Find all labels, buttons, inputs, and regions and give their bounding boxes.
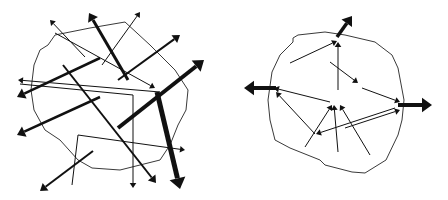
arrow-shaft	[63, 65, 152, 178]
arrow-icon	[345, 108, 400, 128]
arrow-shaft	[321, 108, 395, 132]
right-diagram	[244, 16, 432, 173]
arrow-icon	[244, 81, 276, 95]
arrow-icon	[362, 88, 400, 103]
arrow-icon	[305, 105, 332, 147]
arrow-icon	[276, 92, 315, 134]
arrow-shaft	[362, 88, 395, 100]
arrow-head	[40, 183, 48, 191]
arrow-shaft	[118, 39, 174, 80]
arrow-icon	[50, 20, 85, 57]
arrow-icon	[340, 105, 370, 155]
left-diagram	[17, 12, 204, 191]
blob-outline	[31, 22, 188, 170]
arrow-icon	[102, 12, 140, 65]
arrow-shaft	[345, 112, 395, 128]
arrow-shaft	[72, 135, 180, 185]
arrow-icon	[17, 97, 100, 137]
arrow-head	[170, 176, 186, 189]
arrow-shaft	[343, 109, 370, 155]
arrow-head	[172, 35, 180, 43]
arrow-icon	[17, 58, 100, 99]
blob-outline	[268, 32, 404, 173]
arrow-head	[180, 146, 185, 153]
arrow-head	[331, 105, 338, 110]
arrow-shaft	[305, 109, 329, 147]
arrow-shaft	[334, 110, 338, 152]
arrow-head	[244, 81, 254, 95]
arrow-icon	[63, 65, 156, 183]
arrow-shaft	[24, 97, 100, 132]
arrow-shaft	[279, 96, 315, 134]
arrow-head	[18, 77, 23, 84]
arrow-head	[130, 183, 137, 188]
arrow-icon	[337, 16, 352, 37]
arrow-icon	[40, 151, 93, 191]
arrow-icon	[290, 40, 337, 63]
arrow-icon	[330, 62, 358, 83]
arrow-shaft	[290, 43, 332, 63]
arrow-shaft	[279, 89, 330, 102]
arrow-head	[352, 77, 358, 83]
arrow-icon	[157, 92, 185, 189]
arrow-shaft	[93, 20, 128, 80]
arrow-shaft	[46, 151, 93, 187]
arrow-shaft	[55, 33, 151, 86]
diagram-canvas	[0, 0, 448, 200]
arrow-shaft	[330, 62, 354, 80]
arrow-head	[422, 98, 432, 112]
arrow-head	[134, 12, 140, 18]
